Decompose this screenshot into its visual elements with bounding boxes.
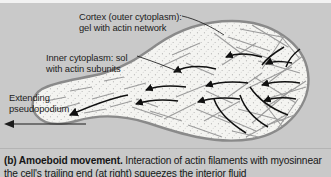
diagram-area: Cortex (outer cytoplasm): gel with actin… — [0, 3, 331, 148]
label-cortex: Cortex (outer cytoplasm): gel with actin… — [79, 11, 182, 33]
label-cortex-line1: Cortex (outer cytoplasm): — [79, 11, 182, 22]
label-inner-cytoplasm-line2: with actin subunits — [46, 63, 121, 74]
caption-body: Interaction of actin filaments with myos… — [123, 155, 302, 166]
label-inner-cytoplasm-line1: Inner cytoplasm: sol — [46, 52, 127, 63]
caption-lead: (b) Amoeboid movement. — [4, 155, 123, 166]
figure-caption: (b) Amoeboid movement. Interaction of ac… — [4, 154, 329, 177]
amoeboid-movement-figure: Cortex (outer cytoplasm): gel with actin… — [0, 0, 331, 177]
label-inner-cytoplasm: Inner cytoplasm: sol with actin subunits — [46, 52, 127, 74]
label-cortex-line2: gel with actin network — [79, 22, 166, 33]
amoeba-cell-body — [33, 21, 309, 141]
label-pseudopodium-line2: pseudopodium — [9, 103, 69, 114]
label-extending-pseudopodium: Extending pseudopodium — [9, 92, 69, 114]
label-pseudopodium-line1: Extending — [9, 92, 50, 103]
